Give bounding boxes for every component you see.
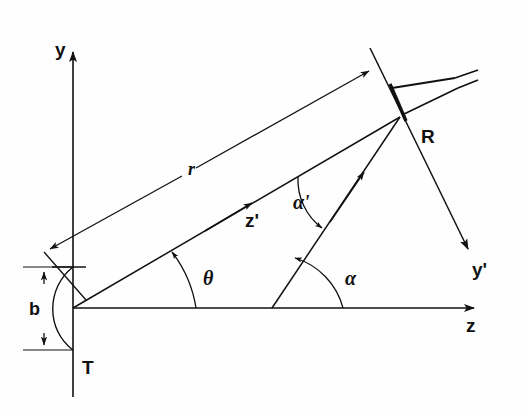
receiver-aperture-body (390, 84, 406, 121)
receiver-flare-upper (392, 78, 455, 88)
alpha-ray (272, 117, 400, 308)
axis-label-y: y (55, 40, 66, 59)
length-label-b: b (29, 300, 40, 318)
node-label-transmitter: T (82, 358, 94, 377)
angle-label-alpha: α (345, 268, 356, 288)
node-label-receiver: R (421, 127, 435, 146)
diagram-vector-layer (0, 0, 522, 417)
transmitter-aperture-arc (53, 267, 73, 350)
alpha-arc-path (295, 258, 343, 308)
theta-angle-arc (172, 252, 196, 308)
alpha-ray-direction-arrow (330, 172, 364, 222)
receiver-flare-upper-tip (455, 70, 478, 78)
angle-label-theta: θ (203, 268, 213, 288)
length-label-r: r (188, 160, 195, 178)
receiver-horn (390, 70, 478, 121)
receiver-flare-lower-tip (458, 80, 478, 88)
theta-arc-path (172, 252, 196, 308)
angle-label-alpha-prime: α' (293, 192, 310, 212)
beam-backward-arrow (50, 176, 182, 249)
transmitter-feed-line (44, 252, 86, 300)
alpha-angle-arc (295, 258, 343, 308)
beam-upper-ray (50, 71, 369, 249)
beam-forward-arrow (196, 71, 369, 168)
axis-label-z-prime: z' (245, 211, 259, 230)
figure-canvas: y z y' z' T R θ α α' r b (0, 0, 522, 417)
receiver-flare-lower (402, 88, 458, 115)
axis-label-z: z (466, 316, 476, 335)
axis-label-y-prime: y' (472, 260, 487, 279)
